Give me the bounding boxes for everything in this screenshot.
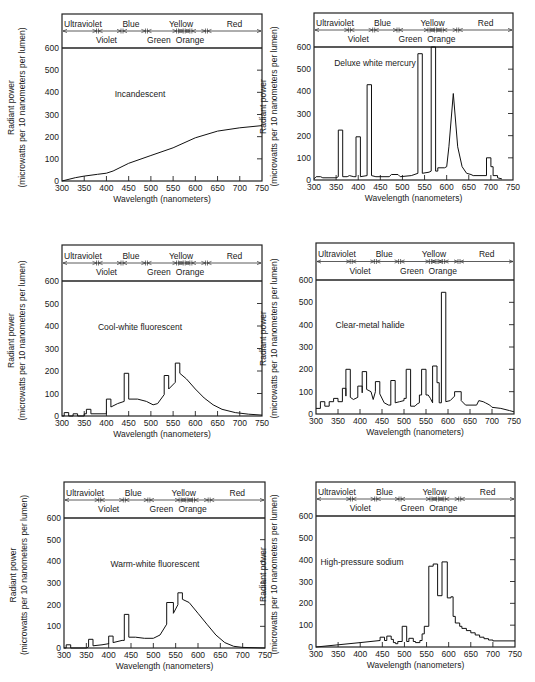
band-label: Yellow (172, 488, 197, 498)
x-tick-label: 750 (508, 649, 522, 659)
band-label: Ultraviolet (318, 487, 356, 497)
x-tick-label: 350 (331, 416, 345, 426)
x-tick-label: 600 (191, 650, 205, 660)
x-tick-label: 300 (55, 183, 69, 193)
band-label: Orange (429, 266, 458, 276)
x-tick-label: 450 (122, 418, 136, 428)
y-tick-label: 400 (297, 86, 311, 96)
x-tick-label: 300 (309, 416, 323, 426)
y-tick-label: 500 (47, 535, 61, 545)
y-axis-label: Radiant power (258, 547, 268, 602)
chart-panel-cool-white-fluorescent: UltravioletBlueYellowRedVioletGreenOrang… (6, 245, 269, 439)
y-tick-label: 300 (299, 342, 313, 352)
x-axis-label: Wavelength (nanometers) (113, 429, 211, 439)
x-tick-label: 550 (166, 418, 180, 428)
y-axis-label: Radiant power (6, 313, 16, 368)
x-tick-label: 650 (210, 183, 224, 193)
x-tick-label: 450 (375, 649, 389, 659)
y-tick-label: 200 (47, 600, 61, 610)
band-label: Violet (96, 35, 118, 45)
band-label: Yellow (169, 19, 194, 29)
chart-title: Clear-metal halide (336, 320, 405, 330)
band-label: Yellow (422, 487, 447, 497)
y-axis-label: Radiant power (258, 311, 268, 366)
y-axis-label-units: (microwatts per 10 nanometers per lumen) (269, 258, 279, 418)
band-label: Green (400, 266, 424, 276)
band-label: Violet (98, 504, 120, 514)
y-axis-label-units: (microwatts per 10 nanometers per lumen) (19, 495, 29, 655)
x-tick-label: 500 (146, 650, 160, 660)
x-tick-label: 300 (55, 418, 69, 428)
x-tick-label: 400 (102, 650, 116, 660)
y-tick-label: 300 (45, 344, 59, 354)
x-tick-label: 550 (419, 649, 433, 659)
y-tick-label: 200 (45, 366, 59, 376)
band-label: Blue (376, 487, 393, 497)
y-tick-label: 300 (297, 109, 311, 119)
band-label: Ultraviolet (64, 19, 102, 29)
y-tick-label: 500 (297, 64, 311, 74)
y-tick-label: 400 (45, 321, 59, 331)
chart-title: Incandescent (115, 89, 166, 99)
x-tick-label: 500 (144, 183, 158, 193)
spectrum-line (62, 363, 262, 416)
x-tick-label: 650 (462, 182, 476, 192)
y-tick-label: 400 (299, 320, 313, 330)
x-tick-label: 350 (331, 649, 345, 659)
y-tick-label: 100 (45, 154, 59, 164)
y-tick-label: 100 (47, 621, 61, 631)
x-tick-label: 400 (353, 416, 367, 426)
spectrum-line (62, 126, 262, 181)
y-tick-label: 600 (299, 275, 313, 285)
x-tick-label: 400 (353, 649, 367, 659)
x-axis-label: Wavelength (nanometers) (116, 661, 214, 671)
band-label: Blue (374, 18, 391, 28)
band-label: Red (478, 18, 494, 28)
y-tick-label: 500 (45, 65, 59, 75)
x-tick-label: 450 (124, 650, 138, 660)
x-tick-label: 550 (417, 182, 431, 192)
chart-title: Warm-white fluorescent (111, 559, 201, 569)
x-tick-label: 350 (77, 183, 91, 193)
y-tick-label: 100 (299, 620, 313, 630)
y-tick-label: 500 (299, 533, 313, 543)
x-tick-label: 500 (397, 416, 411, 426)
y-axis-label: Radiant power (8, 547, 18, 602)
band-label: Red (479, 249, 495, 259)
y-tick-label: 200 (299, 598, 313, 608)
band-label: Green (401, 503, 425, 513)
chart-panel-warm-white-fluorescent: UltravioletBlueYellowRedVioletGreenOrang… (8, 482, 272, 671)
x-tick-label: 350 (329, 182, 343, 192)
y-tick-label: 600 (297, 42, 311, 52)
y-axis-label: Radiant power (6, 80, 16, 135)
band-label: Orange (176, 35, 205, 45)
x-tick-label: 450 (122, 183, 136, 193)
x-tick-label: 600 (188, 183, 202, 193)
x-tick-label: 500 (395, 182, 409, 192)
y-tick-label: 600 (299, 511, 313, 521)
y-tick-label: 300 (45, 110, 59, 120)
x-tick-label: 700 (233, 418, 247, 428)
x-tick-label: 650 (463, 416, 477, 426)
y-tick-label: 100 (299, 387, 313, 397)
x-tick-label: 400 (99, 183, 113, 193)
x-tick-label: 750 (255, 183, 269, 193)
x-tick-label: 700 (484, 182, 498, 192)
x-tick-label: 600 (188, 418, 202, 428)
x-tick-label: 500 (144, 418, 158, 428)
band-label: Blue (122, 19, 139, 29)
x-tick-label: 400 (99, 418, 113, 428)
band-label: Blue (376, 249, 393, 259)
x-tick-label: 750 (506, 182, 520, 192)
chart-panel-clear-metal-halide: UltravioletBlueYellowRedVioletGreenOrang… (258, 243, 521, 437)
band-label: Red (230, 488, 246, 498)
x-axis-label: Wavelength (nanometers) (113, 194, 211, 204)
chart-panel-deluxe-white-mercury: UltravioletBlueYellowRedVioletGreenOrang… (258, 13, 520, 203)
band-label: Orange (178, 504, 207, 514)
band-label: Orange (427, 34, 456, 44)
chart-panel-high-pressure-sodium: UltravioletBlueYellowRedVioletGreenOrang… (258, 482, 522, 670)
band-label: Violet (96, 267, 118, 277)
chart-panel-incandescent: UltravioletBlueYellowRedVioletGreenOrang… (6, 14, 269, 204)
x-tick-label: 300 (57, 650, 71, 660)
x-tick-label: 600 (441, 416, 455, 426)
